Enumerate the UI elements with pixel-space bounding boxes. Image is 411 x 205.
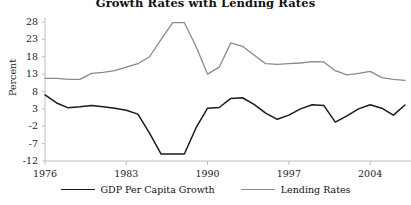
legend-entry[interactable]: Lending Rates xyxy=(241,184,351,195)
chart-legend: GDP Per Capita GrowthLending Rates xyxy=(0,184,411,195)
legend-label: GDP Per Capita Growth xyxy=(101,184,215,195)
legend-entry[interactable]: GDP Per Capita Growth xyxy=(61,184,215,195)
series-line xyxy=(45,23,405,81)
series-line xyxy=(45,95,405,154)
plot-area xyxy=(0,0,411,205)
legend-swatch xyxy=(61,189,95,190)
chart-container: Growth Rates with Lending Rates Percent … xyxy=(0,0,411,205)
legend-label: Lending Rates xyxy=(281,184,351,195)
legend-swatch xyxy=(241,189,275,190)
